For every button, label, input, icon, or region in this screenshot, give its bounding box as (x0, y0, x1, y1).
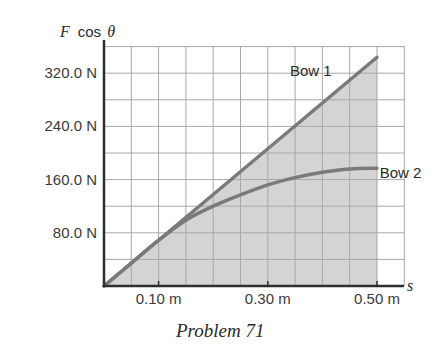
y-tick-labels: 80.0 N160.0 N240.0 N320.0 N (44, 64, 97, 241)
y-tick-label: 160.0 N (44, 171, 97, 188)
y-tick-label: 240.0 N (44, 117, 97, 134)
series-label-bow-1: Bow 1 (290, 62, 332, 79)
y-tick-label: 80.0 N (53, 224, 97, 241)
series-label-bow-2: Bow 2 (380, 164, 422, 181)
x-axis-title: s (407, 277, 413, 294)
y-axis-title: F cos θ (59, 23, 115, 40)
y-tick-label: 320.0 N (44, 64, 97, 81)
x-tick-label: 0.10 m (136, 290, 182, 307)
chart: 0.10 m0.30 m0.50 m 80.0 N160.0 N240.0 N3… (0, 0, 446, 355)
x-tick-label: 0.30 m (245, 290, 291, 307)
x-tick-label: 0.50 m (354, 290, 400, 307)
figure-caption: Problem 71 (175, 320, 264, 341)
x-tick-labels: 0.10 m0.30 m0.50 m (136, 290, 400, 307)
